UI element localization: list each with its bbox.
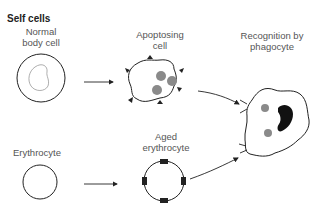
apoptosing-cell-icon — [125, 55, 184, 104]
erythrocyte-icon — [23, 165, 57, 199]
diagram-canvas — [0, 0, 327, 209]
phagocyte-icon — [239, 88, 309, 156]
normal-body-cell-icon — [17, 54, 65, 102]
aged-erythrocyte-icon — [142, 159, 186, 203]
arrow-aged-to-phagocyte — [190, 158, 238, 179]
arrow-apoptosing-to-phagocyte — [198, 91, 239, 104]
